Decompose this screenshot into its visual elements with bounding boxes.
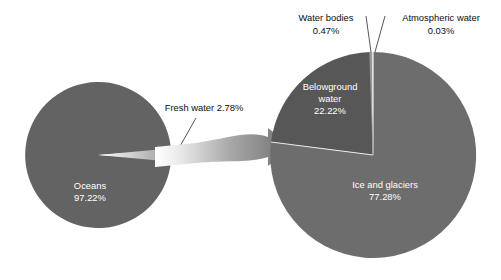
belowground-water-label-line1: Belowground — [303, 81, 358, 92]
atmospheric-water-label-name: Atmospheric water — [402, 12, 480, 23]
fresh-water-callout-label: Fresh water 2.78% — [165, 102, 244, 113]
right-pie-fresh-water-breakdown: Belowground water 22.22% Ice and glacier… — [270, 52, 476, 258]
water-bodies-label-value: 0.47% — [313, 25, 340, 36]
atmospheric-water-callout: Atmospheric water 0.03% — [375, 12, 480, 52]
ice-and-glaciers-label-name: Ice and glaciers — [352, 179, 418, 190]
water-bodies-leader-line — [366, 16, 371, 52]
oceans-label-value: 97.22% — [74, 192, 106, 203]
atmospheric-water-leader-line — [375, 16, 385, 52]
belowground-water-label-line2: water — [318, 93, 342, 104]
chart-canvas: Oceans 97.22% Fresh water 2.78% — [0, 0, 501, 280]
water-bodies-label-name: Water bodies — [299, 12, 354, 23]
water-bodies-callout: Water bodies 0.47% — [299, 12, 371, 52]
belowground-water-label-value: 22.22% — [314, 105, 346, 116]
ice-and-glaciers-label-value: 77.28% — [369, 191, 401, 202]
pie-of-pie-chart: Oceans 97.22% Fresh water 2.78% — [0, 0, 501, 280]
oceans-label-name: Oceans — [74, 180, 107, 191]
atmospheric-water-label-value: 0.03% — [428, 25, 455, 36]
